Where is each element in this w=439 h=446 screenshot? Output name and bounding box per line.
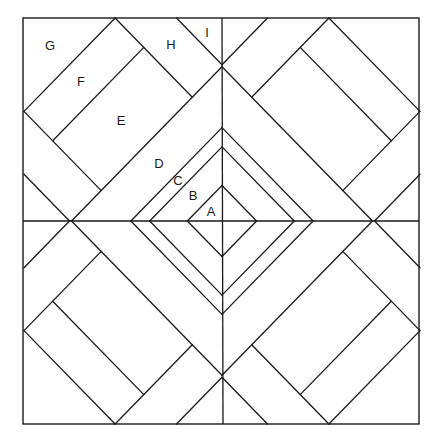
- g-diagonal: [24, 18, 115, 111]
- quadrant-bottom-left: [24, 221, 222, 424]
- patch-label-f: F: [77, 75, 85, 88]
- i-corner-line: [177, 377, 223, 424]
- b-c-diamond-edge: [222, 147, 294, 221]
- patch-label-i: I: [205, 26, 209, 39]
- rect-upper-side: [252, 18, 329, 97]
- rect-lower-side: [343, 251, 420, 330]
- patch-label-c: C: [173, 174, 182, 187]
- side-corner-line: [375, 174, 421, 221]
- big-diamond-edge: [72, 67, 223, 221]
- side-corner-line: [24, 221, 70, 268]
- c-d-diamond-edge: [131, 221, 222, 314]
- side-corner-line: [375, 221, 421, 268]
- f-e-divider: [300, 301, 391, 394]
- rect-lower-side: [24, 111, 101, 190]
- big-diamond-edge: [222, 221, 373, 375]
- a-diamond-edge: [222, 221, 257, 257]
- quadrant-bottom-right: [222, 221, 420, 424]
- g-diagonal: [329, 18, 420, 111]
- patch-label-e: E: [117, 114, 126, 127]
- big-diamond-edge: [222, 67, 373, 221]
- c-d-diamond-edge: [222, 221, 313, 314]
- b-c-diamond-edge: [150, 221, 222, 295]
- i-corner-line: [222, 18, 268, 65]
- quadrant-top-right: [222, 18, 420, 221]
- rect-lower-side: [343, 111, 420, 190]
- rect-lower-side: [24, 251, 101, 330]
- g-diagonal: [24, 331, 115, 424]
- a-diamond-edge: [187, 221, 222, 257]
- c-d-diamond-edge: [222, 128, 313, 221]
- i-corner-line: [177, 18, 223, 65]
- side-corner-line: [24, 174, 70, 221]
- i-corner-line: [222, 377, 268, 424]
- rect-upper-side: [252, 345, 329, 424]
- patch-label-b: B: [189, 189, 198, 202]
- f-e-divider: [53, 301, 144, 394]
- patch-label-a: A: [207, 205, 216, 218]
- rect-upper-side: [115, 18, 192, 97]
- f-e-divider: [53, 47, 144, 140]
- patch-label-h: H: [166, 38, 175, 51]
- big-diamond-edge: [72, 221, 223, 375]
- patch-label-g: G: [45, 39, 55, 52]
- rect-upper-side: [115, 345, 192, 424]
- b-c-diamond-edge: [222, 221, 294, 295]
- f-e-divider: [300, 47, 391, 140]
- a-diamond-edge: [222, 186, 257, 222]
- g-diagonal: [329, 331, 420, 424]
- patch-label-d: D: [154, 157, 163, 170]
- quilt-block-diagram: [0, 0, 439, 446]
